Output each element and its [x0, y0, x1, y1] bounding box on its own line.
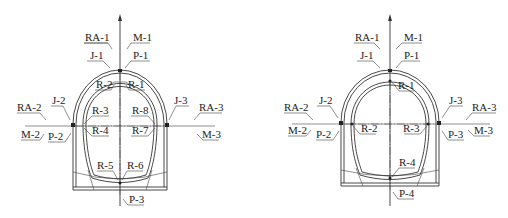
label-ra3: RA-3 — [472, 101, 497, 113]
label-r3: R-3 — [403, 122, 420, 134]
leader-ra3 — [194, 113, 222, 120]
label-r2: R-2 — [361, 122, 378, 134]
right-tunnel-section: RA-1 M-1 J-1 P-1 R-1 RA-2 J-2 R-2 R-3 J-… — [284, 14, 497, 206]
label-r4: R-4 — [92, 124, 109, 136]
label-p4: P-4 — [399, 187, 415, 199]
label-ra3: RA-3 — [199, 101, 224, 113]
label-r4: R-4 — [399, 156, 416, 168]
label-j1: J-1 — [90, 49, 103, 61]
point-r3 — [427, 123, 430, 126]
label-p2: P-2 — [316, 128, 331, 140]
label-m1: M-1 — [404, 31, 423, 43]
label-p3: P-3 — [129, 193, 145, 205]
label-r1: R-1 — [398, 79, 415, 91]
point-r2 — [351, 123, 354, 126]
label-p3: P-3 — [448, 128, 464, 140]
point-r5-r6 — [119, 182, 122, 185]
label-j1: J-1 — [360, 49, 373, 61]
leader-r3 — [84, 116, 109, 124]
label-ra1: RA-1 — [355, 31, 379, 43]
label-p1: P-1 — [133, 49, 148, 61]
label-j2: J-2 — [52, 94, 65, 106]
point-r4 — [389, 177, 392, 180]
point-j3 — [437, 121, 441, 125]
label-r2: R-2 — [96, 78, 113, 90]
leader-j1 — [87, 61, 110, 68]
label-j2: J-2 — [319, 94, 332, 106]
arrow-up-icon — [388, 14, 392, 21]
label-j3: J-3 — [174, 94, 188, 106]
point-j3 — [165, 123, 169, 127]
label-r5: R-5 — [97, 159, 114, 171]
point-j1 — [388, 69, 392, 72]
leader-ra2 — [17, 113, 46, 120]
point-j2 — [71, 123, 75, 127]
label-m3: M-3 — [202, 128, 221, 140]
leader-ra2 — [284, 113, 313, 120]
label-r3: R-3 — [92, 104, 109, 116]
arrow-up-icon — [118, 14, 122, 21]
point-j2 — [339, 121, 343, 125]
label-m2: M-2 — [288, 124, 307, 136]
label-j3: J-3 — [449, 94, 463, 106]
label-m3: M-3 — [474, 124, 493, 136]
leader-p1 — [396, 61, 420, 68]
label-m2: M-2 — [21, 128, 40, 140]
label-r6: R-6 — [127, 159, 144, 171]
leader-j2 — [51, 106, 70, 120]
leader-j2 — [317, 106, 338, 118]
label-r8: R-8 — [132, 104, 149, 116]
label-r1: R-1 — [128, 78, 145, 90]
label-r7: R-7 — [132, 124, 149, 136]
label-ra2: RA-2 — [284, 101, 308, 113]
label-m1: M-1 — [133, 31, 152, 43]
leader-ra3 — [466, 113, 496, 120]
leader-j1 — [357, 61, 380, 68]
tunnel-monitoring-diagrams: RA-1 M-1 J-1 P-1 R-2 R-1 RA-2 J-2 R-3 R-… — [0, 0, 508, 218]
label-ra1: RA-1 — [85, 31, 109, 43]
leader-p1 — [125, 61, 150, 68]
label-ra2: RA-2 — [17, 101, 41, 113]
label-p1: P-1 — [404, 49, 419, 61]
leader-j3 — [169, 106, 189, 120]
point-j1 — [118, 69, 122, 72]
leader-j3 — [442, 106, 463, 118]
left-tunnel-section: RA-1 M-1 J-1 P-1 R-2 R-1 RA-2 J-2 R-3 R-… — [17, 14, 224, 206]
label-p2: P-2 — [48, 130, 63, 142]
point-r1 — [389, 80, 392, 83]
leader-r8 — [131, 116, 155, 124]
